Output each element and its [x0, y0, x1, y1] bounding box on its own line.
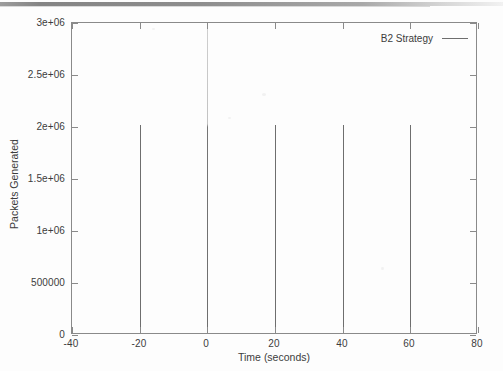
y-axis-tick-label: 500000	[31, 277, 65, 288]
y-axis-tick	[72, 231, 78, 232]
data-impulse	[343, 125, 344, 333]
legend-line-swatch	[442, 38, 468, 39]
chart-legend: B2 Strategy	[381, 33, 468, 44]
x-axis-tick-label: -20	[132, 338, 147, 349]
x-axis-tick	[275, 23, 276, 29]
y-axis-tick	[72, 283, 78, 284]
scan-artifact-streak-secondary	[0, 6, 430, 7]
x-axis-tick	[410, 327, 411, 333]
data-impulse	[140, 125, 141, 333]
y-axis-tick	[72, 127, 78, 128]
x-axis-tick-label: 80	[471, 338, 482, 349]
y-axis-tick	[72, 75, 78, 76]
data-impulse	[410, 125, 411, 333]
y-axis-tick-label: 2.5e+06	[28, 69, 65, 80]
y-axis-title: Packets Generated	[8, 114, 20, 254]
x-axis-tick	[140, 23, 141, 29]
x-axis-tick-label: 40	[336, 338, 347, 349]
y-axis-tick	[470, 231, 476, 232]
y-axis-tick	[72, 335, 78, 336]
y-axis-tick-label: 1.5e+06	[28, 173, 65, 184]
legend-label-b2-strategy: B2 Strategy	[381, 33, 433, 44]
y-axis-tick	[470, 179, 476, 180]
y-axis-tick	[470, 283, 476, 284]
y-axis-tick	[470, 75, 476, 76]
x-axis-tick-label: 60	[403, 338, 414, 349]
x-axis-tick-label: 20	[268, 338, 279, 349]
x-axis-tick-label: 0	[203, 338, 209, 349]
y-axis-tick	[470, 127, 476, 128]
y-axis-tick-label: 1e+06	[36, 225, 65, 236]
x-axis-tick	[275, 327, 276, 333]
x-axis-tick	[140, 327, 141, 333]
x-axis-tick	[478, 327, 479, 333]
y-axis-tick	[470, 335, 476, 336]
x-axis-tick-labels: -40-20020406080	[71, 338, 477, 352]
x-axis-tick	[343, 23, 344, 29]
plot-data-region	[72, 23, 476, 333]
plot-area: B2 Strategy	[71, 22, 477, 334]
x-axis-tick	[410, 23, 411, 29]
x-axis-tick	[343, 327, 344, 333]
x-axis-tick	[478, 23, 479, 29]
x-axis-tick	[207, 23, 208, 29]
y-axis-tick-label: 2e+06	[36, 121, 65, 132]
y-axis-tick-label: 3e+06	[36, 17, 65, 28]
x-axis-title: Time (seconds)	[71, 351, 477, 363]
data-impulse	[275, 125, 276, 333]
x-axis-tick	[72, 327, 73, 333]
data-impulse	[207, 23, 208, 333]
x-axis-tick	[72, 23, 73, 29]
y-axis-tick	[72, 179, 78, 180]
chart-figure: 05000001e+061.5e+062e+062.5e+063e+06 B2 …	[0, 0, 503, 371]
x-axis-tick	[207, 327, 208, 333]
x-axis-tick-label: -40	[64, 338, 79, 349]
y-axis-tick	[470, 23, 476, 24]
